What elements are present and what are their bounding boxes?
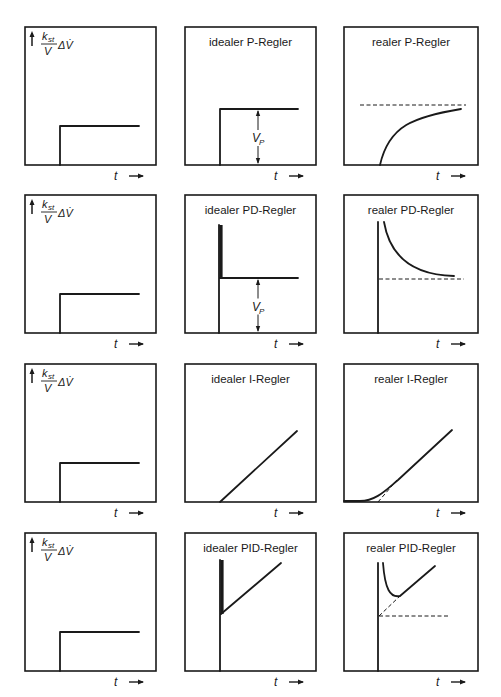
time-axis-label: t (436, 675, 466, 689)
input-signal-label: kstVΔV̇ (30, 198, 75, 225)
svg-text:ΔV̇: ΔV̇ (57, 39, 74, 51)
svg-text:ΔV̇: ΔV̇ (57, 545, 74, 557)
svg-text:t: t (436, 675, 440, 689)
panel-title: idealer P-Regler (209, 36, 292, 48)
svg-text:st: st (48, 372, 55, 381)
svg-text:t: t (274, 337, 278, 351)
right-arrow-icon (451, 342, 466, 347)
svg-text:t: t (436, 337, 440, 351)
input-signal-label: kstVΔV̇ (30, 536, 75, 563)
panel-real-PD: realer PD-Reglert (344, 195, 478, 351)
up-arrow-icon (30, 199, 35, 214)
right-arrow-icon (129, 342, 144, 347)
svg-text:t: t (274, 506, 278, 520)
svg-text:t: t (114, 675, 118, 689)
svg-text:V: V (44, 213, 53, 225)
svg-text:P: P (259, 138, 265, 147)
svg-text:t: t (436, 506, 440, 520)
panel-input-step: tkstVΔV̇ (25, 364, 156, 520)
time-axis-label: t (274, 337, 304, 351)
panel-title: idealer PID-Regler (203, 542, 298, 554)
svg-text:V: V (44, 551, 53, 563)
panel-ideal-I: idealer I-Reglert (185, 364, 316, 520)
panel-title: realer P-Regler (372, 36, 450, 48)
svg-text:t: t (274, 675, 278, 689)
svg-text:st: st (48, 203, 55, 212)
panel-ideal-P: idealer P-ReglertVP (185, 27, 316, 183)
input-step-curve (60, 294, 139, 333)
svg-text:t: t (274, 169, 278, 183)
time-axis-label: t (274, 169, 304, 183)
panel-input-step: tkstVΔV̇ (25, 195, 156, 351)
panel-input-step: tkstVΔV̇ (25, 27, 156, 183)
right-arrow-icon (289, 511, 304, 516)
panel-real-P: realer P-Reglert (344, 27, 478, 183)
panel-title: realer I-Regler (374, 373, 448, 385)
time-axis-label: t (114, 169, 144, 183)
time-axis-label: t (114, 675, 144, 689)
svg-text:t: t (114, 169, 118, 183)
panel-title: idealer PD-Regler (205, 204, 297, 216)
right-arrow-icon (289, 680, 304, 685)
right-arrow-icon (129, 511, 144, 516)
right-arrow-icon (451, 174, 466, 179)
input-signal-label: kstVΔV̇ (30, 367, 75, 394)
response-curve (384, 222, 454, 276)
right-arrow-icon (289, 342, 304, 347)
vp-dimension: VP (251, 110, 265, 164)
input-step-curve (60, 463, 139, 502)
svg-text:t: t (114, 506, 118, 520)
panel-real-I: realer I-Reglert (344, 364, 478, 520)
panel-title: idealer I-Regler (211, 373, 290, 385)
time-axis-label: t (274, 506, 304, 520)
response-curve (383, 563, 435, 596)
svg-text:t: t (114, 337, 118, 351)
up-arrow-icon (30, 31, 35, 46)
svg-text:ΔV̇: ΔV̇ (57, 207, 74, 219)
right-arrow-icon (289, 174, 304, 179)
time-axis-label: t (114, 506, 144, 520)
svg-text:V: V (44, 45, 53, 57)
panel-ideal-PD: idealer PD-ReglertVP (185, 195, 316, 351)
panel-input-step: tkstVΔV̇ (25, 533, 156, 689)
controller-step-response-figure: tkstVΔV̇idealer P-ReglertVPrealer P-Regl… (0, 0, 501, 697)
svg-text:P: P (259, 307, 265, 316)
right-arrow-icon (451, 680, 466, 685)
right-arrow-icon (129, 174, 144, 179)
time-axis-label: t (114, 337, 144, 351)
svg-text:V: V (44, 382, 53, 394)
vp-dimension: VP (251, 279, 265, 332)
time-axis-label: t (436, 337, 466, 351)
response-curve (220, 560, 281, 671)
right-arrow-icon (451, 511, 466, 516)
svg-text:st: st (48, 35, 55, 44)
input-step-curve (60, 632, 139, 671)
response-ramp (220, 431, 297, 502)
input-signal-label: kstVΔV̇ (30, 30, 75, 57)
right-arrow-icon (129, 680, 144, 685)
response-curve (344, 430, 452, 501)
up-arrow-icon (30, 368, 35, 383)
response-curve (380, 109, 461, 165)
time-axis-label: t (436, 169, 466, 183)
svg-text:ΔV̇: ΔV̇ (57, 376, 74, 388)
input-step-curve (60, 126, 139, 165)
time-axis-label: t (436, 506, 466, 520)
integral-dashed-line (379, 596, 400, 616)
svg-text:st: st (48, 541, 55, 550)
panel-title: realer PD-Regler (368, 204, 454, 216)
panel-title: realer PID-Regler (366, 542, 456, 554)
panel-real-PID: realer PID-Reglert (344, 533, 478, 689)
up-arrow-icon (30, 537, 35, 552)
time-axis-label: t (274, 675, 304, 689)
svg-text:t: t (436, 169, 440, 183)
panel-ideal-PID: idealer PID-Reglert (185, 533, 316, 689)
